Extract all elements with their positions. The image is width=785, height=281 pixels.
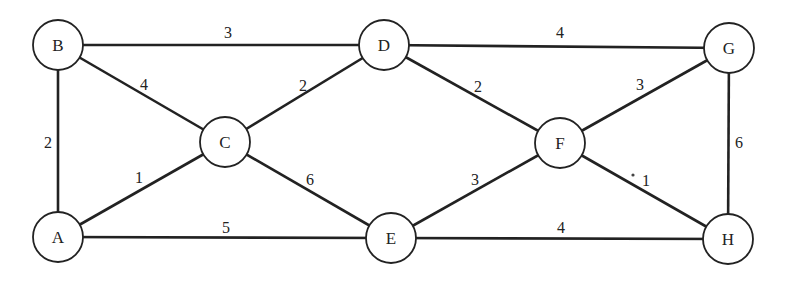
edge-weight-label: 6: [735, 134, 743, 151]
node-label: B: [52, 36, 63, 55]
node-d: D: [359, 20, 409, 70]
edge-weight-label: 3: [471, 171, 479, 188]
node-c: C: [200, 117, 250, 167]
node-label: E: [386, 229, 396, 248]
edge-weight-label: 5: [222, 219, 230, 236]
nodes-layer: ABCDEFGH: [33, 20, 754, 264]
edge-weight-label: 4: [556, 24, 564, 41]
node-label: C: [219, 133, 230, 152]
edge-weight-label: 4: [557, 219, 565, 236]
node-a: A: [33, 212, 83, 262]
edge-f-g: [560, 48, 729, 143]
edge-g-h: [728, 48, 729, 239]
edges-layer: [58, 45, 729, 239]
edge-e-f: [391, 143, 560, 238]
graph-diagram: 34422326163154 ABCDEFGH: [0, 0, 785, 281]
node-b: B: [33, 20, 83, 70]
node-label: F: [555, 134, 564, 153]
edge-weight-label: 2: [474, 78, 482, 95]
edge-weight-label: 2: [299, 77, 307, 94]
node-g: G: [704, 23, 754, 73]
edge-d-f: [384, 45, 560, 143]
edge-weight-label: 1: [135, 169, 143, 186]
edge-c-e: [225, 142, 391, 238]
edge-weight-label: 3: [224, 24, 232, 41]
edge-weight-label: 1: [642, 172, 650, 189]
node-label: A: [52, 228, 65, 247]
edge-a-c: [58, 142, 225, 237]
edge-weight-label: 2: [44, 134, 52, 151]
edge-b-c: [58, 45, 225, 142]
edge-d-g: [384, 45, 729, 48]
edge-weight-label: 3: [636, 76, 644, 93]
edge-a-e: [58, 237, 391, 238]
node-label: G: [723, 39, 735, 58]
node-e: E: [366, 213, 416, 263]
stray-dot-mark: [631, 173, 634, 176]
edge-f-h: [560, 143, 728, 239]
node-label: D: [378, 36, 390, 55]
node-h: H: [703, 214, 753, 264]
edge-weight-label: 6: [306, 171, 314, 188]
graph-canvas: 34422326163154 ABCDEFGH: [0, 0, 785, 281]
artifacts-layer: [631, 173, 634, 176]
edge-e-h: [391, 238, 728, 239]
node-f: F: [535, 118, 585, 168]
node-label: H: [722, 230, 734, 249]
edge-weight-label: 4: [140, 76, 148, 93]
